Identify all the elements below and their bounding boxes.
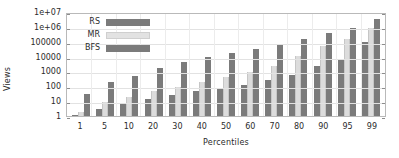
x-axis-tick-labels: 151020304050607080909599 (66, 120, 386, 134)
x-axis-tick-label: 5 (92, 120, 116, 134)
y-axis-tick-mark (67, 103, 70, 104)
y-axis-tick-mark (382, 88, 385, 89)
legend-item-bfs[interactable]: BFS (78, 43, 150, 53)
y-axis-tick-mark (67, 73, 70, 74)
legend-item-rs[interactable]: RS (78, 17, 150, 27)
bar-bfs-1 (84, 94, 90, 116)
y-axis-tick-mark (382, 14, 385, 15)
y-axis-tick-label: 10000 (36, 54, 61, 62)
gridline-vertical (189, 14, 190, 116)
x-axis-tick-label: 90 (311, 120, 335, 134)
gridline-vertical (214, 14, 215, 116)
legend-item-mr[interactable]: MR (78, 30, 150, 40)
legend-swatch-rs (106, 19, 150, 26)
y-axis-tick-mark (67, 118, 70, 119)
bar-bfs-80 (301, 39, 307, 116)
legend-swatch-bfs (106, 45, 150, 52)
x-axis-tick-label: 60 (238, 120, 262, 134)
gridline (67, 59, 385, 60)
y-axis-tick-mark (67, 88, 70, 89)
gridline-vertical (312, 14, 313, 116)
gridline-vertical (361, 14, 362, 116)
x-axis-tick-label: 30 (165, 120, 189, 134)
y-axis-tick-label: 1e+06 (34, 24, 61, 32)
x-axis-tick-label: 10 (117, 120, 141, 134)
y-axis-tick-mark (67, 44, 70, 45)
gridline-vertical (165, 14, 166, 116)
y-axis-tick-label: 100000 (30, 39, 61, 47)
y-axis-tick-mark (382, 118, 385, 119)
bar-bfs-20 (157, 68, 163, 116)
bar-bfs-10 (132, 76, 138, 116)
y-axis-tick-label: 1000 (41, 68, 61, 76)
gridline (67, 88, 385, 89)
y-axis-tick-mark (382, 73, 385, 74)
y-axis-tick-label: 1e+07 (34, 9, 61, 17)
chart-legend: RSMRBFS (78, 17, 150, 53)
x-axis-tick-label: 99 (360, 120, 384, 134)
gridline-vertical (336, 14, 337, 116)
gridline-vertical (263, 14, 264, 116)
legend-label: BFS (78, 43, 100, 53)
x-axis-title: Percentiles (66, 138, 386, 147)
legend-swatch-mr (106, 32, 150, 39)
legend-label: RS (78, 17, 100, 27)
x-axis-tick-label: 95 (335, 120, 359, 134)
bar-bfs-50 (229, 53, 235, 116)
y-axis-tick-label: 1 (56, 113, 61, 121)
x-axis-tick-label: 50 (214, 120, 238, 134)
y-axis-tick-mark (382, 59, 385, 60)
x-axis-tick-label: 40 (190, 120, 214, 134)
y-axis-tick-labels: 1e+071e+06100000100001000100101 (14, 8, 64, 120)
y-axis-tick-mark (382, 44, 385, 45)
y-axis-tick-mark (67, 14, 70, 15)
y-axis-title: Views (0, 0, 14, 158)
y-axis-tick-mark (67, 29, 70, 30)
bar-chart: Views 1e+071e+06100000100001000100101 15… (0, 0, 399, 158)
x-axis-tick-label: 70 (263, 120, 287, 134)
y-axis-tick-label: 100 (46, 83, 61, 91)
y-axis-tick-mark (382, 29, 385, 30)
x-axis-tick-label: 1 (68, 120, 92, 134)
x-axis-tick-label: 20 (141, 120, 165, 134)
gridline-vertical (238, 14, 239, 116)
bar-bfs-40 (205, 57, 211, 116)
x-axis-tick-label: 80 (287, 120, 311, 134)
gridline (67, 73, 385, 74)
bar-bfs-70 (277, 44, 283, 116)
y-axis-tick-label: 10 (51, 98, 61, 106)
y-axis-tick-mark (382, 103, 385, 104)
legend-label: MR (78, 30, 100, 40)
y-axis-tick-mark (67, 59, 70, 60)
gridline-vertical (287, 14, 288, 116)
gridline (67, 103, 385, 104)
bar-bfs-99 (374, 19, 380, 116)
